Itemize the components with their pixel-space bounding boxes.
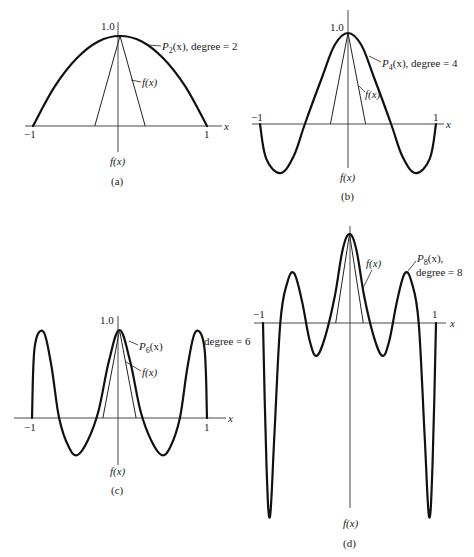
peak-label-a: 1.0 (101, 20, 115, 32)
arrow-fx-d (363, 270, 372, 288)
peak-label-b: 1.0 (330, 21, 344, 33)
p2-label: P2(x), degree = 2 (161, 40, 238, 55)
x-label-d: x (449, 317, 455, 329)
f-label-b: f(x) (365, 88, 381, 101)
caption-b: (b) (341, 190, 354, 203)
f-triangle-c (103, 330, 136, 418)
arrow-p8 (408, 261, 416, 271)
degree-label-d: degree = 8 (416, 266, 463, 278)
arrow-fx-c (126, 362, 141, 371)
caption-a: (a) (111, 175, 124, 188)
f-label-c: f(x) (142, 366, 158, 379)
panel-c: 1.0 −1 1 x P6(x) f(x) degree = 6 f(x) (c… (14, 314, 251, 497)
f-axis-label-c: f(x) (110, 465, 126, 478)
degree-label-c: degree = 6 (204, 335, 251, 347)
panel-a: 1.0 −1 1 x P2(x), degree = 2 f(x) f(x) (… (24, 20, 238, 188)
p6-curve (32, 330, 207, 455)
peak-label-c: 1.0 (100, 314, 114, 326)
tick-pos-a: 1 (204, 128, 210, 140)
p8-curve (263, 234, 436, 518)
panel-b: 1.0 −1 1 x P4(x), degree = 4 f(x) f(x) (… (251, 10, 458, 203)
f-axis-label-d: f(x) (343, 517, 359, 530)
x-label-c: x (227, 412, 233, 424)
tick-pos-c: 1 (204, 421, 210, 433)
caption-c: (c) (111, 484, 124, 497)
arrow-p4 (369, 56, 381, 62)
arrow-p6 (129, 341, 138, 345)
caption-d: (d) (343, 537, 356, 550)
f-label-d: f(x) (366, 257, 382, 270)
polynomial-approximation-figure: 1.0 −1 1 x P2(x), degree = 2 f(x) f(x) (… (0, 0, 474, 557)
tick-pos-b: 1 (433, 111, 439, 123)
f-triangle-d (336, 234, 364, 323)
f-axis-label-b: f(x) (340, 171, 356, 184)
p6-label: P6(x) (138, 340, 163, 355)
p8-label: P8(x), (416, 252, 444, 267)
tick-neg-c: −1 (24, 421, 36, 433)
tick-neg-d: −1 (253, 308, 265, 320)
x-label-b: x (445, 118, 451, 130)
p4-label: P4(x), degree = 4 (381, 57, 458, 72)
tick-pos-d: 1 (432, 308, 438, 320)
panel-d: −1 1 x P8(x), degree = 8 f(x) f(x) (d) (253, 226, 463, 550)
tick-neg-a: −1 (24, 128, 36, 140)
f-axis-label-a: f(x) (110, 155, 126, 168)
tick-neg-b: −1 (251, 111, 263, 123)
x-label-a: x (223, 120, 229, 132)
f-label-a: f(x) (142, 76, 158, 89)
